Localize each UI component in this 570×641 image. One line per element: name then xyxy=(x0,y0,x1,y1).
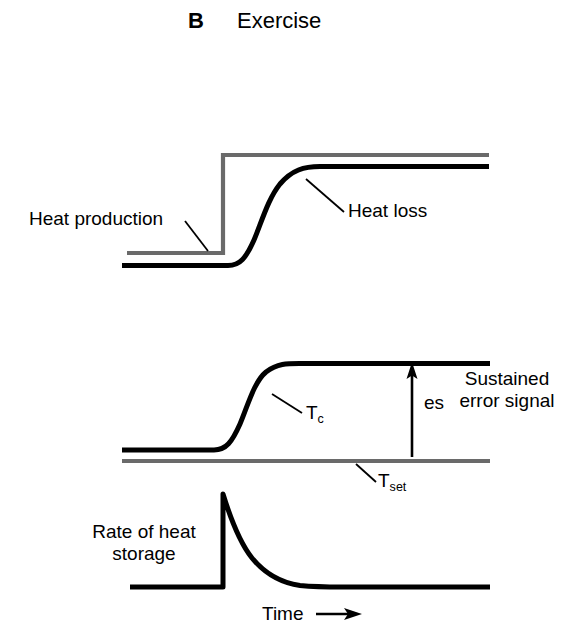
leader-heat-production xyxy=(185,221,208,251)
time-axis-arrow xyxy=(316,608,362,620)
panel-top-heat-balance xyxy=(122,155,489,266)
tc-symbol: T xyxy=(306,402,318,423)
label-rate-of-heat-storage: Rate of heat storage xyxy=(77,521,211,566)
error-signal-arrow xyxy=(407,362,418,457)
leader-tset xyxy=(356,464,376,482)
panel-title: Exercise xyxy=(237,8,321,34)
leader-tc xyxy=(272,394,302,413)
tc-subscript: c xyxy=(318,412,324,426)
figure-container: B Exercise Heat production Heat loss Tc … xyxy=(0,0,570,641)
label-setpoint-temperature: Tset xyxy=(378,470,406,492)
label-error-signal-symbol: es xyxy=(424,392,444,414)
label-heat-loss: Heat loss xyxy=(348,200,427,222)
leader-heat-loss xyxy=(306,179,344,212)
label-heat-production: Heat production xyxy=(29,208,163,230)
curve-heat-loss xyxy=(122,167,489,266)
tset-subscript: set xyxy=(390,480,407,494)
label-time-axis: Time xyxy=(262,603,304,625)
label-sustained-error-signal: Sustained error signal xyxy=(448,368,566,413)
panel-letter: B xyxy=(188,8,204,34)
tset-symbol: T xyxy=(378,470,390,491)
label-core-temperature: Tc xyxy=(306,402,324,424)
